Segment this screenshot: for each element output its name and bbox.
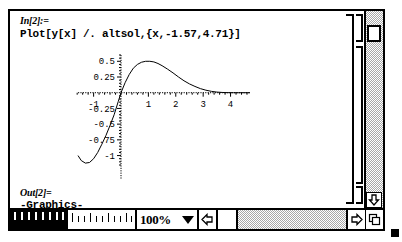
svg-text:0.25: 0.25	[93, 73, 115, 83]
down-arrow-icon	[367, 193, 381, 207]
window-resize-button[interactable]	[366, 210, 383, 229]
plot-tick-labels: -112340.50.25-0.25-0.5-0.75-1	[88, 57, 233, 161]
svg-text:4: 4	[228, 100, 233, 110]
svg-text:0.5: 0.5	[99, 57, 115, 67]
notebook-outer-bracket[interactable]	[346, 14, 354, 204]
svg-text:-1: -1	[104, 152, 115, 162]
corner-dot-marker	[391, 229, 399, 237]
output-cell-code: -Graphics-	[20, 199, 83, 208]
zoom-level-selector[interactable]: 100%	[137, 210, 199, 229]
horizontal-scrollbar-thumb[interactable]	[10, 210, 68, 229]
graphics-cell-bracket[interactable]	[356, 46, 363, 184]
input-cell-bracket[interactable]	[356, 14, 363, 42]
input-cell-label: In[2]:=	[20, 15, 340, 26]
horizontal-scrollbar-track[interactable]	[68, 210, 137, 229]
horizontal-scroll-track[interactable]	[238, 210, 348, 229]
chevron-down-icon[interactable]	[182, 216, 194, 224]
output-cell-label: Out[2]=	[20, 187, 83, 198]
notebook-window: In[2]:= Plot[y[x] /. altsol,{x,-1.57,4.7…	[8, 9, 385, 231]
horizontal-scroll-spacer[interactable]	[218, 210, 238, 229]
cell-bracket-column	[346, 11, 364, 208]
plot-graphic[interactable]: -112340.50.25-0.25-0.5-0.75-1	[18, 47, 258, 187]
scroll-down-button[interactable]	[366, 192, 382, 208]
vertical-scrollbar-thumb[interactable]	[367, 25, 381, 42]
zoom-level-value: 100%	[140, 212, 171, 228]
graphics-output-cell[interactable]: -112340.50.25-0.25-0.5-0.75-1	[18, 47, 258, 187]
output-cell[interactable]: Out[2]= -Graphics-	[20, 187, 83, 208]
right-arrow-icon	[350, 213, 363, 226]
output-cell-bracket[interactable]	[356, 186, 363, 204]
vertical-scrollbar[interactable]	[364, 11, 383, 208]
window-resize-icon	[368, 213, 381, 226]
scroll-right-button[interactable]	[348, 210, 366, 229]
scroll-left-button[interactable]	[199, 210, 218, 229]
bottom-toolbar[interactable]: 100%	[10, 208, 383, 229]
svg-text:1: 1	[146, 100, 151, 110]
notebook-cells-area[interactable]: In[2]:= Plot[y[x] /. altsol,{x,-1.57,4.7…	[10, 11, 350, 208]
input-cell-code[interactable]: Plot[y[x] /. altsol,{x,-1.57,4.71}]	[20, 27, 340, 41]
svg-text:-0.25: -0.25	[88, 105, 115, 115]
left-arrow-icon	[201, 213, 214, 226]
svg-text:2: 2	[173, 100, 178, 110]
input-cell[interactable]: In[2]:= Plot[y[x] /. altsol,{x,-1.57,4.7…	[20, 15, 340, 41]
svg-text:3: 3	[200, 100, 205, 110]
